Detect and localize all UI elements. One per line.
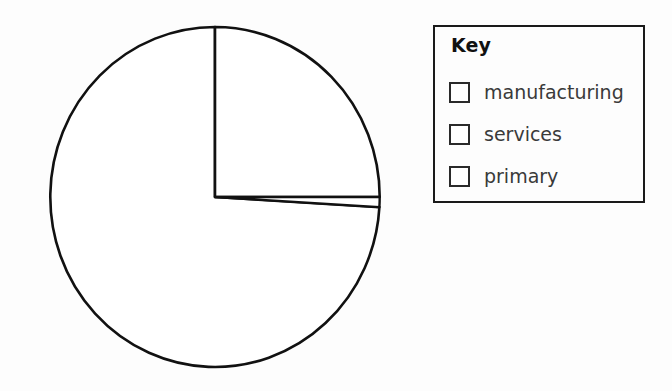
legend-swatch-icon [449, 82, 470, 103]
pie-slice-manufacturing [215, 27, 380, 197]
legend-items: manufacturing services primary [449, 71, 643, 197]
legend-item-label: manufacturing [484, 83, 624, 102]
legend-item-label: primary [484, 167, 558, 186]
legend-title: Key [451, 34, 491, 56]
legend-item-primary: primary [449, 155, 643, 197]
pie-chart-figure: Key manufacturing services primary [0, 0, 672, 391]
legend-item-services: services [449, 113, 643, 155]
legend-item-label: services [484, 125, 562, 144]
chart-legend: Key manufacturing services primary [433, 25, 645, 203]
legend-swatch-icon [449, 124, 470, 145]
legend-item-manufacturing: manufacturing [449, 71, 643, 113]
legend-swatch-icon [449, 166, 470, 187]
